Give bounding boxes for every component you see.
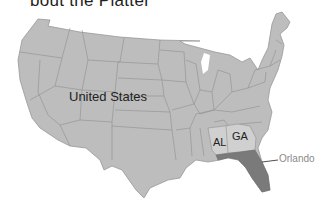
label-georgia: GA [232,130,248,142]
label-alabama: AL [213,136,226,148]
orlando-leader-line [262,160,278,162]
florida [216,150,270,192]
us-map [0,0,330,201]
label-united-states: United States [69,89,147,104]
label-orlando: Orlando [279,153,315,164]
